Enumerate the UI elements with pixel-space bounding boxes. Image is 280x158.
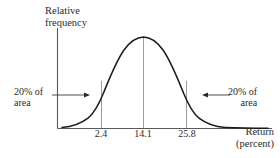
right-tail-area-annotation: 20% ofarea [228, 86, 257, 108]
bell-curve-figure: Relativefrequency Return(percent) 2.4 14… [0, 0, 280, 158]
left-tail-area-line2: area [14, 97, 43, 108]
bell-curve-path [62, 37, 268, 128]
y-axis-label-line1: Relative [45, 5, 80, 16]
x-axis-label: Return(percent) [236, 126, 274, 150]
x-tick-label-25.8: 25.8 [167, 128, 207, 139]
x-axis-label-line2: (percent) [236, 138, 274, 150]
x-tick-label-2.4: 2.4 [81, 128, 121, 139]
left-tail-area-annotation: 20% ofarea [14, 86, 43, 108]
y-axis-label-line2: frequency [45, 17, 87, 28]
x-tick-label-14.1: 14.1 [123, 128, 163, 139]
y-axis-label: Relativefrequency [45, 5, 87, 29]
right-tail-area-line2: area [228, 97, 257, 108]
right-leader-arrowhead [202, 92, 208, 97]
right-tail-area-line1: 20% of [228, 86, 257, 97]
left-leader-arrowhead [84, 92, 90, 97]
x-axis-label-line1: Return [245, 126, 274, 137]
left-tail-area-line1: 20% of [14, 86, 43, 97]
